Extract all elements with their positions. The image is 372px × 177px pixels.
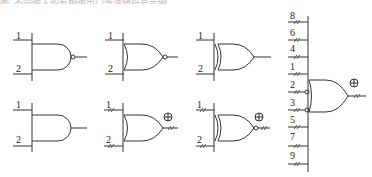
xor-marker-icon	[350, 79, 358, 87]
input-4: 4	[288, 43, 308, 59]
svg-text:1: 1	[290, 61, 295, 72]
input-label-2: 2	[16, 134, 21, 145]
xnor-bus-gate: 1 2	[196, 99, 270, 152]
multi-input-or-gate: 8 6 4 1 2 3	[288, 10, 366, 172]
xor-gate: 1 2	[196, 30, 271, 81]
svg-text:2: 2	[290, 79, 295, 90]
input-label-1: 1	[197, 99, 202, 110]
input-6: 6	[288, 27, 308, 42]
svg-text:7: 7	[290, 131, 295, 142]
input-label-1: 1	[198, 30, 203, 41]
input-label-2: 2	[106, 134, 111, 145]
nor-gate: 1 2	[105, 30, 178, 81]
input-5: 5	[288, 114, 308, 129]
input-label-2: 2	[197, 134, 202, 145]
or-bus-gate: 1 2	[104, 99, 178, 152]
caption: 图: 不同输入的反相输出门等逻辑符号示例	[0, 0, 372, 4]
input-9: 9	[288, 150, 308, 166]
xor-marker-icon	[164, 113, 172, 121]
svg-text:6: 6	[290, 27, 295, 38]
nand-gate: 1 2	[13, 30, 87, 81]
input-2-inverted: 2	[288, 79, 309, 94]
svg-text:8: 8	[290, 10, 295, 21]
input-1: 1	[288, 61, 308, 76]
svg-text:5: 5	[290, 114, 295, 125]
logic-gate-diagram: 1 2 1 2 1 2 1 2	[0, 0, 372, 177]
input-7: 7	[288, 131, 308, 148]
input-label-1: 1	[16, 30, 21, 41]
svg-text:9: 9	[290, 150, 295, 161]
input-label-2: 2	[108, 63, 113, 74]
svg-text:3: 3	[290, 97, 295, 108]
input-8: 8	[288, 10, 308, 24]
input-label-1: 1	[108, 30, 113, 41]
input-label-2: 2	[198, 63, 203, 74]
xor-marker-icon	[255, 113, 263, 121]
input-3-inverted: 3	[288, 97, 309, 112]
input-label-1: 1	[16, 99, 21, 110]
input-label-2: 2	[16, 63, 21, 74]
and-gate: 1 2	[13, 99, 87, 152]
svg-text:4: 4	[290, 43, 295, 54]
